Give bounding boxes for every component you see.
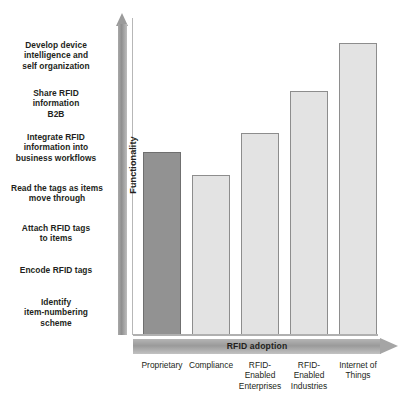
- bar-proprietary: [143, 152, 181, 335]
- stage-line: item-numbering: [0, 307, 112, 317]
- stage-annotation-read-the-tags: Read the tags as itemsmove through: [0, 183, 114, 204]
- x-axis-title: RFID adoption: [133, 341, 381, 351]
- stage-line: to items: [0, 233, 112, 243]
- stage-line: information into: [0, 142, 112, 152]
- stage-annotation-integrate-rfid-information: Integrate RFIDinformation intobusiness w…: [0, 132, 112, 163]
- x-axis-category-label: RFID-EnabledEnterprises: [233, 360, 287, 391]
- stage-annotation-attach-rfid-tags: Attach RFID tagsto items: [0, 223, 112, 244]
- stage-line: move through: [0, 193, 114, 203]
- stage-line: Integrate RFID: [0, 132, 112, 142]
- stage-annotation-encode-rfid-tags: Encode RFID tags: [0, 265, 112, 275]
- category-line: Internet of: [331, 360, 385, 370]
- stage-line: intelligence and: [0, 50, 112, 60]
- x-axis-arrowhead-icon: [380, 338, 398, 354]
- bar-rfid-enabled-enterprises: [241, 133, 279, 335]
- bar-rfid-enabled-industries: [290, 91, 328, 335]
- stage-line: Develop device: [0, 40, 112, 50]
- category-line: Enterprises: [233, 381, 287, 391]
- x-axis-category-label: Proprietary: [135, 360, 189, 370]
- stage-line: B2B: [0, 109, 112, 119]
- x-axis-category-label: Internet ofThings: [331, 360, 385, 381]
- x-axis-baseline: [133, 334, 378, 336]
- stage-line: Attach RFID tags: [0, 223, 112, 233]
- stage-line: Read the tags as items: [0, 183, 114, 193]
- x-axis-category-label: Compliance: [184, 360, 238, 370]
- plot-area: [133, 14, 378, 335]
- stage-annotation-identify-item-numbering-scheme: Identifyitem-numberingscheme: [0, 297, 112, 328]
- stage-annotation-share-rfid-information-b2b: Share RFIDinformationB2B: [0, 88, 112, 119]
- stage-line: business workflows: [0, 153, 112, 163]
- bar-compliance: [192, 175, 230, 336]
- rfid-adoption-functionality-chart: Develop deviceintelligence andself organ…: [0, 0, 409, 408]
- category-line: Enabled: [282, 370, 336, 380]
- stage-annotation-develop-device-intelligence: Develop deviceintelligence andself organ…: [0, 40, 112, 71]
- bar-internet-of-things: [339, 43, 377, 335]
- y-axis-shaft: [118, 24, 127, 335]
- category-line: Things: [331, 370, 385, 380]
- category-line: Enabled: [233, 370, 287, 380]
- stage-line: Encode RFID tags: [0, 265, 112, 275]
- stage-line: Identify: [0, 297, 112, 307]
- category-line: Industries: [282, 381, 336, 391]
- category-line: Proprietary: [135, 360, 189, 370]
- stage-line: scheme: [0, 318, 112, 328]
- category-line: Compliance: [184, 360, 238, 370]
- stage-line: self organization: [0, 61, 112, 71]
- category-line: RFID-: [282, 360, 336, 370]
- stage-line: information: [0, 98, 112, 108]
- category-line: RFID-: [233, 360, 287, 370]
- stage-line: Share RFID: [0, 88, 112, 98]
- x-axis-category-label: RFID-EnabledIndustries: [282, 360, 336, 391]
